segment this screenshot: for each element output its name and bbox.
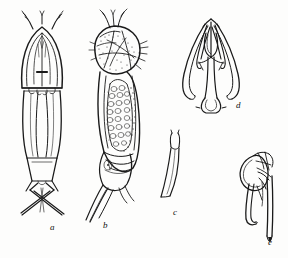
plate-artwork — [0, 0, 288, 258]
panel-e-drawing — [240, 152, 273, 243]
panel-label-d: d — [236, 101, 241, 110]
panel-c-drawing — [161, 130, 180, 197]
panel-d-drawing — [183, 19, 240, 113]
panel-label-c: c — [173, 208, 177, 217]
egg-mass-cells — [107, 85, 131, 146]
panel-label-b: b — [103, 221, 108, 230]
panel-label-a: a — [50, 223, 55, 232]
panel-b-drawing — [86, 9, 148, 222]
panel-a-drawing — [21, 11, 64, 215]
panel-label-e: e — [268, 238, 272, 247]
figure-plate: a b c d e — [0, 0, 288, 258]
